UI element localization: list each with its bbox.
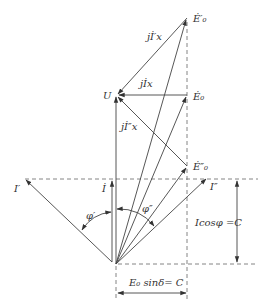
label-jI-prime-x: jİ′x [145,31,162,42]
label-I-double: I″ [209,181,218,192]
label-I-prime: I′ [13,183,21,194]
phasor-diagram: Ė′₀ jİ′x jİx U Ė₀ jİ″x Ė″₀ I′ İ I″ φ′ φ″… [0,0,262,303]
E0-double-vector [116,168,186,264]
label-E0-prime: Ė′₀ [192,13,207,24]
label-I: İ [101,183,107,194]
label-jI-double-x: jİ″x [119,121,138,132]
label-E0-double: Ė″₀ [192,161,208,172]
label-phi-prime: φ′ [86,210,96,221]
I-prime-vector [26,180,112,262]
label-phi-double: φ″ [142,203,153,214]
label-jI-x: jİx [138,78,153,89]
label-E0: Ė₀ [192,91,204,102]
label-U: U [103,90,112,101]
label-E0-sin-delta: E₀ sinδ= C [128,277,184,288]
I-double-vector [116,179,206,264]
E0-prime-vector [116,20,186,264]
label-Icos-phi: Icosφ =C [194,217,242,228]
